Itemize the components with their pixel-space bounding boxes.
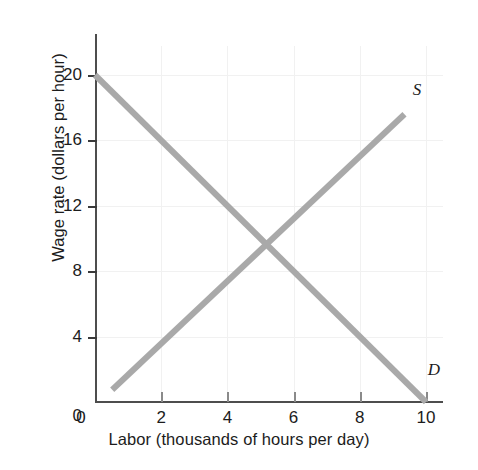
x-axis-tick-label: 0 bbox=[61, 408, 101, 428]
gridline-vertical bbox=[161, 46, 162, 402]
x-axis-line bbox=[95, 401, 443, 403]
x-axis-title: Labor (thousands of hours per day) bbox=[0, 430, 478, 449]
x-axis-tick-label: 4 bbox=[207, 408, 247, 428]
x-axis-tick-label: 8 bbox=[340, 408, 380, 428]
gridline-vertical bbox=[294, 46, 295, 402]
y-axis-tick-label: 20 bbox=[40, 65, 82, 85]
x-axis-tick bbox=[426, 392, 428, 402]
y-axis-tick bbox=[88, 75, 97, 77]
x-axis-tick-label: 6 bbox=[274, 408, 314, 428]
gridline-vertical bbox=[426, 46, 427, 402]
y-axis-line bbox=[95, 34, 97, 403]
y-axis-tick bbox=[88, 206, 97, 208]
x-axis-tick-label: 2 bbox=[141, 408, 181, 428]
x-axis-tick bbox=[227, 392, 229, 402]
gridline-horizontal bbox=[95, 206, 443, 207]
gridline-vertical bbox=[227, 46, 228, 402]
gridline-horizontal bbox=[95, 75, 443, 76]
y-axis-tick bbox=[88, 337, 97, 339]
x-axis-tick-label: 10 bbox=[406, 408, 446, 428]
y-axis-tick bbox=[88, 271, 97, 273]
curve-label-d: D bbox=[428, 360, 440, 380]
x-axis-tick bbox=[294, 392, 296, 402]
y-axis-tick-label: 4 bbox=[40, 327, 82, 347]
y-axis-tick-label: 12 bbox=[40, 196, 82, 216]
gridline-horizontal bbox=[95, 271, 443, 272]
economics-supply-demand-chart: Wage rate (dollars per hour) Labor (thou… bbox=[0, 0, 478, 470]
curve-label-s: S bbox=[413, 80, 422, 100]
gridline-horizontal bbox=[95, 140, 443, 141]
y-axis-tick-label: 16 bbox=[40, 130, 82, 150]
gridline-horizontal bbox=[95, 337, 443, 338]
plot-area bbox=[95, 40, 443, 402]
x-axis-tick bbox=[161, 392, 163, 402]
gridline-vertical bbox=[360, 46, 361, 402]
x-axis-tick bbox=[360, 392, 362, 402]
y-axis-tick bbox=[88, 140, 97, 142]
y-axis-tick-label: 8 bbox=[40, 261, 82, 281]
